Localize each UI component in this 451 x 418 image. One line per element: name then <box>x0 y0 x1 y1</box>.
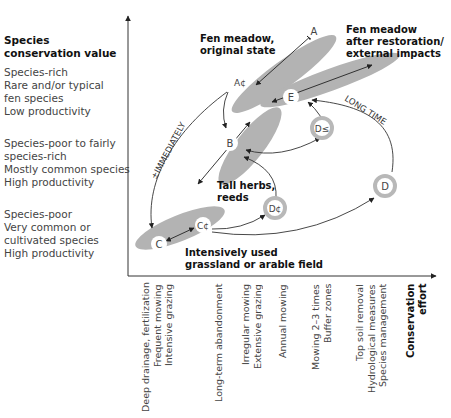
node-d1: D¢ <box>265 198 285 218</box>
x-category-line: Irregular mowing <box>240 284 251 365</box>
x-category-restoration: Top soil removal Hydrological measures S… <box>354 284 389 412</box>
x-axis-title: Conservation effort <box>405 284 428 412</box>
node-c: C <box>151 236 167 252</box>
x-axis-title-line: Conservation <box>405 284 416 358</box>
x-category-intensive: Deep drainage, fertilization Frequent mo… <box>140 284 175 412</box>
label-intensive: Intensively used <box>185 247 278 258</box>
label-tall-herbs: reeds <box>217 192 249 203</box>
label-fen-restored: after restoration/ <box>346 36 444 47</box>
node-d2: D≤ <box>312 118 332 138</box>
node-d: D <box>375 176 395 196</box>
node-label: D¢ <box>269 204 282 214</box>
x-category-line: Buffer zones <box>322 284 333 343</box>
x-category-line: Intensive grazing <box>163 284 174 366</box>
x-category-line: Long-term abandonment <box>213 284 224 402</box>
node-label: E <box>288 92 294 103</box>
node-label: B <box>227 138 234 149</box>
node-a: A <box>306 23 322 39</box>
curve-d2-e <box>308 102 321 117</box>
label-fen-restored: external impacts <box>346 48 441 59</box>
label-long-time: LONG TIME <box>343 93 388 126</box>
x-category-line: Mowing 2–3 times <box>310 284 321 370</box>
x-category-line: Annual mowing <box>277 284 288 358</box>
node-label: D≤ <box>315 124 329 134</box>
label-tall-herbs: Tall herbs, <box>217 180 275 191</box>
x-category-line: Top soil removal <box>354 284 365 361</box>
label-intensive: grassland or arable field <box>185 259 323 270</box>
node-label: A <box>311 26 318 37</box>
curve-a1-to-b <box>223 92 228 128</box>
node-b: B <box>222 135 238 151</box>
x-category-line: Extensive grazing <box>252 284 263 369</box>
x-category-line: Deep drainage, fertilization <box>140 282 151 412</box>
x-category-abandonment: Long-term abandonment <box>213 284 225 412</box>
node-e: E <box>283 89 299 105</box>
x-category-line: Frequent mowing <box>152 284 163 367</box>
node-c1: C¢ <box>195 217 211 233</box>
x-category-annual: Annual mowing <box>277 284 289 412</box>
node-label: C¢ <box>197 221 209 231</box>
curve-c1-d <box>212 198 374 235</box>
node-label: A¢ <box>234 78 246 88</box>
node-a1: A¢ <box>232 74 248 90</box>
node-label: C <box>156 239 163 250</box>
label-fen-restored: Fen meadow <box>346 24 417 35</box>
x-category-mowing: Mowing 2–3 times Buffer zones <box>310 284 333 412</box>
x-category-line: Hydrological measures <box>366 284 377 393</box>
node-label: D <box>381 181 389 192</box>
x-category-irregular: Irregular mowing Extensive grazing <box>240 284 263 412</box>
x-axis-title-line: effort <box>417 284 428 315</box>
label-immediately: ±IMMEDIATELY <box>149 120 188 181</box>
x-category-line: Species management <box>377 284 388 387</box>
label-fen-original: Fen meadow, <box>200 33 274 44</box>
label-fen-original: original state <box>200 45 276 56</box>
ellipse-tall-herbs <box>209 100 290 193</box>
